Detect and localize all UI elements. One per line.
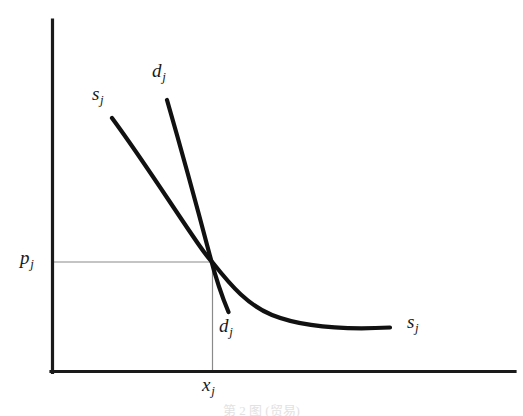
plot-canvas (0, 0, 523, 416)
quantity-axis-label: xj (202, 375, 215, 397)
price-axis-subscript: j (30, 256, 34, 271)
demand-upper-base: d (152, 60, 162, 81)
supply-demand-figure: sj dj dj sj pj xj 第 2 图 (贸易) (0, 0, 523, 416)
demand-lower-base: d (219, 315, 229, 336)
supply-upper-base: s (92, 83, 100, 104)
demand-curve-label-lower: dj (219, 316, 233, 338)
supply-right-subscript: j (415, 320, 419, 335)
demand-lower-subscript: j (229, 324, 233, 339)
supply-right-base: s (407, 311, 415, 332)
demand-curve (167, 100, 229, 312)
price-axis-label: pj (20, 248, 34, 270)
supply-upper-subscript: j (100, 92, 104, 107)
demand-curve-label-upper: dj (152, 61, 166, 83)
price-axis-base: p (20, 247, 30, 268)
supply-curve-label-right: sj (407, 312, 419, 334)
supply-curve-label-upper: sj (92, 84, 104, 106)
demand-upper-subscript: j (162, 69, 166, 84)
supply-curve (112, 118, 390, 328)
figure-caption-partial: 第 2 图 (贸易) (0, 404, 523, 416)
quantity-axis-base: x (202, 374, 211, 395)
quantity-axis-subscript: j (211, 383, 215, 398)
